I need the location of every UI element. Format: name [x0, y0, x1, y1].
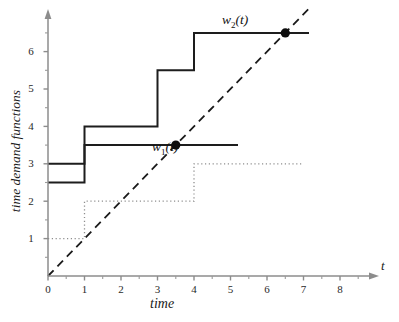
x-axis-symbol: t [381, 258, 385, 274]
x-tick-label-0: 0 [40, 283, 56, 295]
identity-dashed-line [48, 7, 311, 276]
dotted-step-series [48, 164, 304, 239]
x-tick-label-2: 2 [113, 283, 129, 295]
x-tick-label-8: 8 [332, 283, 348, 295]
w1-curve-label: w1(t) [152, 139, 178, 157]
x-tick-label-6: 6 [259, 283, 275, 295]
x-tick-label-7: 7 [296, 283, 312, 295]
x-tick-label-5: 5 [223, 283, 239, 295]
y-tick-label-1: 1 [23, 232, 39, 244]
w2-curve-label: w2(t) [222, 12, 248, 30]
w2-marker-point [281, 28, 290, 37]
w2-base: w [222, 12, 231, 27]
x-tick-label-1: 1 [77, 283, 93, 295]
y-tick-label-6: 6 [23, 45, 39, 57]
w1-suffix: (t) [166, 139, 179, 154]
y-tick-label-3: 3 [23, 157, 39, 169]
x-axis-arrow [369, 273, 379, 280]
w2-suffix: (t) [236, 12, 249, 27]
y-tick-label-2: 2 [23, 195, 39, 207]
w1-base: w [152, 139, 161, 154]
y-tick-label-4: 4 [23, 120, 39, 132]
chart-figure [0, 0, 399, 322]
x-axis-title: time [150, 296, 174, 312]
y-tick-label-5: 5 [23, 82, 39, 94]
y-axis-title: time demand functions [8, 71, 24, 231]
x-tick-label-4: 4 [186, 283, 202, 295]
x-tick-label-3: 3 [150, 283, 166, 295]
y-axis-arrow [45, 9, 52, 19]
